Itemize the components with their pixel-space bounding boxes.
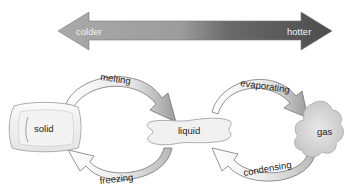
- evaporating-arrow: evaporating: [212, 77, 308, 118]
- solid-state: solid: [9, 102, 81, 151]
- gas-label: gas: [317, 126, 333, 137]
- melting-arrow: melting: [66, 71, 176, 122]
- hotter-label: hotter: [287, 26, 311, 37]
- liquid-label: liquid: [178, 125, 200, 136]
- freezing-label: freezing: [99, 172, 134, 186]
- colder-label: colder: [76, 26, 102, 37]
- evaporating-label: evaporating: [240, 77, 291, 95]
- condensing-arrow: condensing: [212, 148, 316, 181]
- states-of-matter-diagram: colder hotter melting freezing evaporati…: [0, 0, 357, 196]
- liquid-state: liquid: [147, 118, 231, 145]
- solid-label: solid: [34, 123, 54, 134]
- freezing-arrow: freezing: [68, 148, 172, 186]
- temperature-scale-arrow: colder hotter: [58, 12, 332, 50]
